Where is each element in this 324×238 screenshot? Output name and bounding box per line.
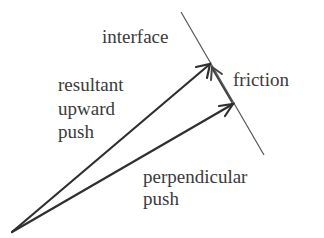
perpendicular-label-line1: perpendicular — [143, 166, 247, 187]
resultant-label-line3: push — [58, 121, 94, 142]
force-diagram: interface friction resultant upward push… — [0, 0, 324, 238]
friction-arrow — [211, 67, 232, 102]
perpendicular-label-line2: push — [143, 188, 179, 209]
resultant-label-line2: upward — [58, 98, 115, 119]
interface-label: interface — [102, 26, 168, 47]
resultant-label-line1: resultant — [58, 74, 123, 95]
friction-label: friction — [233, 69, 289, 90]
